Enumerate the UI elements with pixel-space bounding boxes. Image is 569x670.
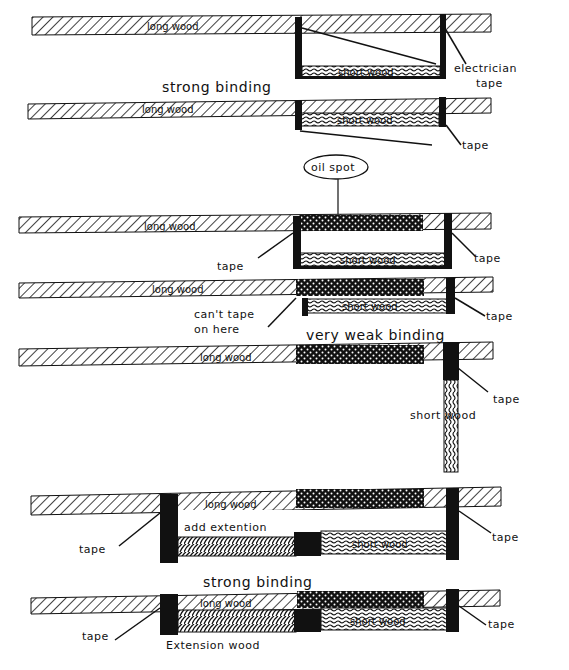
long-wood-label: long wood (147, 21, 199, 32)
oil-spot-area (297, 591, 424, 608)
oil-spot-area (300, 215, 423, 231)
panel-1: long wood short wood electrician tape (32, 14, 517, 90)
short-wood-label: short wood (350, 616, 406, 627)
long-wood-label: long wood (200, 598, 252, 609)
extension-wood-label: Extension wood (166, 639, 260, 652)
callout-line (119, 513, 160, 546)
short-wood-label: short wood (342, 301, 398, 312)
tape-left (293, 216, 301, 269)
short-wood-label: short wood (352, 539, 408, 550)
joint-tape (294, 609, 321, 632)
tape-right (446, 488, 459, 560)
short-wood-label: short wood (340, 255, 396, 266)
callout-line (302, 28, 436, 64)
panel-7: strong binding long wood short wood Exte… (31, 574, 515, 652)
tape-left-label: tape (82, 630, 109, 643)
cant-tape-note-line2: on here (194, 323, 240, 336)
long-wood-label: long wood (152, 284, 204, 295)
tape-right (440, 14, 446, 79)
oil-spot-area (296, 279, 424, 296)
tape-right-label: tape (474, 252, 501, 265)
callout-line (452, 233, 475, 256)
long-wood-bar (32, 14, 491, 35)
tape (443, 342, 459, 380)
panel-5: long wood tape short wood (19, 342, 520, 472)
callout-line (458, 368, 488, 392)
extension-wood-bar (178, 610, 296, 632)
callout-line (268, 298, 296, 327)
very-weak-binding-caption: very weak binding (306, 327, 445, 343)
callout-line (459, 511, 491, 533)
panel-3: oil spot long wood short wood tape tape (19, 155, 501, 273)
tape-right (444, 213, 452, 269)
tape-right-label: tape (492, 531, 519, 544)
tape-right (446, 278, 455, 314)
short-wood-label: short wood (337, 115, 393, 126)
short-wood-vertical (444, 380, 458, 472)
short-wood-label: short wood (410, 409, 476, 422)
tape-right (446, 589, 459, 632)
callout-line (300, 131, 432, 145)
long-wood-label: long wood (205, 499, 257, 510)
long-wood-label: long wood (144, 221, 196, 232)
oil-spot-label: oil spot (311, 161, 355, 174)
tape-right-label: tape (488, 618, 515, 631)
tape-left-label: tape (217, 260, 244, 273)
electrician-tape-label-2: tape (476, 77, 503, 90)
tape-label: tape (486, 310, 513, 323)
panel-6: long wood add extention short wood tape … (31, 487, 519, 563)
tape-left (295, 17, 302, 79)
oil-spot-area (296, 345, 424, 364)
electrician-tape-label: electrician (454, 62, 517, 75)
tape-bottom (293, 266, 452, 269)
tape-label: tape (493, 393, 520, 406)
add-extension-note: add extention (184, 521, 267, 534)
long-wood-label: long wood (200, 352, 252, 363)
tape-right (439, 97, 446, 127)
callout-line (459, 606, 486, 625)
short-wood-label: short wood (338, 67, 394, 78)
tape-left-stub (302, 298, 308, 316)
tape-left-label: tape (79, 543, 106, 556)
diagram-canvas: long wood short wood electrician tape st… (0, 0, 569, 670)
callout-line (455, 298, 485, 316)
panel-2: strong binding long wood short wood tape (28, 79, 491, 152)
panel-4: long wood short wood can't tape on here … (19, 277, 513, 343)
cant-tape-note-line1: can't tape (194, 308, 254, 321)
extension-wood-bar (178, 537, 296, 556)
tape-label: tape (462, 139, 489, 152)
strong-binding-heading: strong binding (162, 79, 272, 95)
tape-left (160, 494, 178, 563)
tape-left (160, 594, 178, 635)
callout-line (446, 125, 461, 145)
tape-left (295, 100, 302, 130)
callout-line (446, 30, 466, 64)
oil-spot-area (296, 489, 424, 508)
callout-line (258, 233, 293, 258)
joint-tape (294, 532, 321, 556)
long-wood-label: long wood (142, 104, 194, 115)
strong-binding-heading: strong binding (203, 574, 313, 590)
